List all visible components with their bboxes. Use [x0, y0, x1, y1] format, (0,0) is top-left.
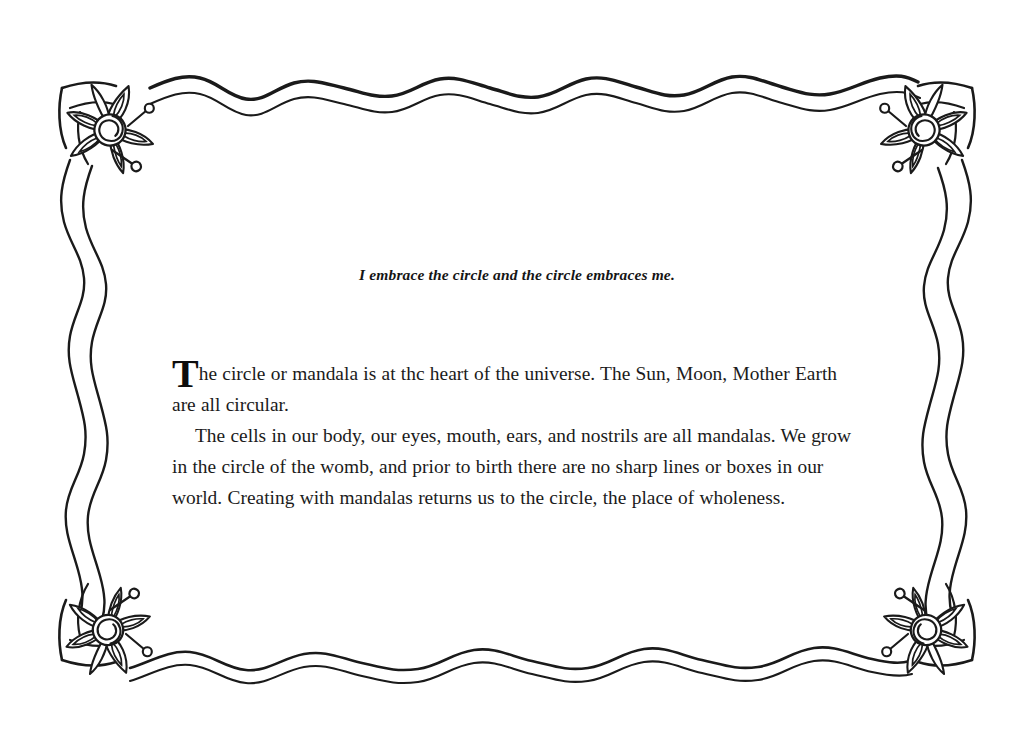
page-canvas: I embrace the circle and the circle embr… [0, 0, 1034, 748]
drop-cap-letter: T [172, 360, 198, 388]
page-content: I embrace the circle and the circle embr… [0, 0, 1034, 748]
paragraph-two: The cells in our body, our eyes, mouth, … [172, 420, 858, 513]
body-text-block: The circle or mandala is at thc heart of… [172, 358, 858, 513]
epigraph-line: I embrace the circle and the circle embr… [172, 266, 862, 284]
paragraph-one-text: he circle or mandala is at thc heart of … [172, 363, 837, 415]
paragraph-one: The circle or mandala is at thc heart of… [172, 358, 858, 420]
